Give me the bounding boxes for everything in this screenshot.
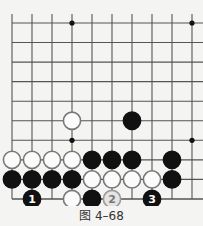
white-stone [103, 171, 120, 188]
black-stone [83, 151, 100, 168]
star-point [189, 138, 194, 143]
white-stone [23, 151, 40, 168]
white-stone [63, 190, 80, 206]
white-stone [3, 151, 20, 168]
black-stone [83, 190, 100, 206]
black-stone [3, 171, 20, 188]
black-stone [163, 171, 180, 188]
black-stone [163, 151, 180, 168]
black-stone [63, 171, 80, 188]
move-number-label: 3 [148, 193, 156, 206]
black-stone [43, 171, 60, 188]
figure-caption: 图 4–68 [0, 206, 203, 223]
white-stone [63, 112, 80, 129]
star-point [189, 20, 194, 25]
white-stone [63, 151, 80, 168]
go-board-diagram: 123 [0, 0, 203, 206]
white-stone [83, 171, 100, 188]
black-stone [123, 112, 140, 129]
white-stone [143, 171, 160, 188]
move-number-label: 1 [28, 193, 36, 206]
white-stone [123, 171, 140, 188]
black-stone [23, 171, 40, 188]
black-stone [103, 151, 120, 168]
white-stone [43, 151, 60, 168]
star-point [69, 138, 74, 143]
move-number-label: 2 [108, 193, 116, 206]
star-point [69, 20, 74, 25]
black-stone [123, 151, 140, 168]
